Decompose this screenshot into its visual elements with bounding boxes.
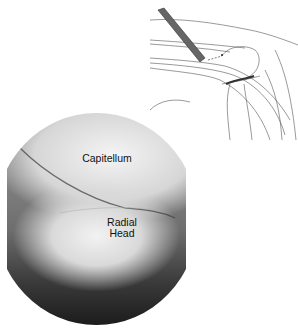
arthroscope-instrument-icon [158,8,205,62]
arthroscopic-image: Capitellum Radial Head [7,113,186,325]
radial-head-label: Radial Head [102,217,142,239]
capitellum-label: Capitellum [77,153,137,164]
radial-head-label-line2: Head [102,228,142,239]
